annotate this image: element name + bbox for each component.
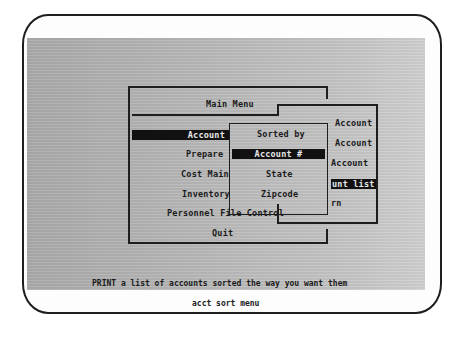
sort-menu-item-state[interactable]: State	[266, 169, 293, 179]
sort-menu-item-account-number[interactable]: Account #	[232, 149, 325, 159]
sort-menu-item-zipcode[interactable]: Zipcode	[261, 189, 298, 199]
status-line: PRINT a list of accounts sorted the way …	[92, 279, 347, 288]
account-submenu-item[interactable]: Account	[335, 118, 372, 128]
main-menu-item-cost-main[interactable]: Cost Main	[181, 169, 229, 179]
main-menu-item-inventory[interactable]: Inventory	[182, 189, 230, 199]
main-menu-title-divider	[132, 114, 278, 116]
main-menu-border-bottom	[128, 242, 328, 244]
account-submenu-item[interactable]: Account	[331, 158, 368, 168]
account-submenu-border-top	[277, 104, 378, 106]
account-submenu-item-selected[interactable]: unt list	[331, 179, 376, 189]
main-menu-border-right-bottom	[326, 229, 328, 243]
account-submenu-item[interactable]: rn	[331, 198, 342, 208]
account-submenu-item[interactable]: Account	[335, 138, 372, 148]
main-menu-border-left	[128, 86, 130, 244]
main-menu-border-top	[128, 86, 328, 88]
main-menu-title: Main Menu	[206, 99, 254, 109]
screen-caption: acct sort menu	[192, 299, 259, 308]
account-submenu-item-label: unt list	[332, 179, 375, 189]
main-menu-item-label: Account	[188, 130, 225, 140]
main-menu-item-quit[interactable]: Quit	[212, 228, 233, 238]
sort-menu-item-label: Account #	[255, 149, 303, 159]
account-submenu-border-left-top	[277, 104, 279, 116]
main-menu-item-account[interactable]: Account	[132, 130, 229, 140]
main-menu-border-right-top	[326, 86, 328, 99]
account-submenu-border-right	[376, 104, 378, 224]
main-menu-item-prepare[interactable]: Prepare	[186, 149, 223, 159]
account-submenu-border-bottom	[277, 222, 378, 224]
sort-menu-title: Sorted by	[257, 129, 305, 139]
